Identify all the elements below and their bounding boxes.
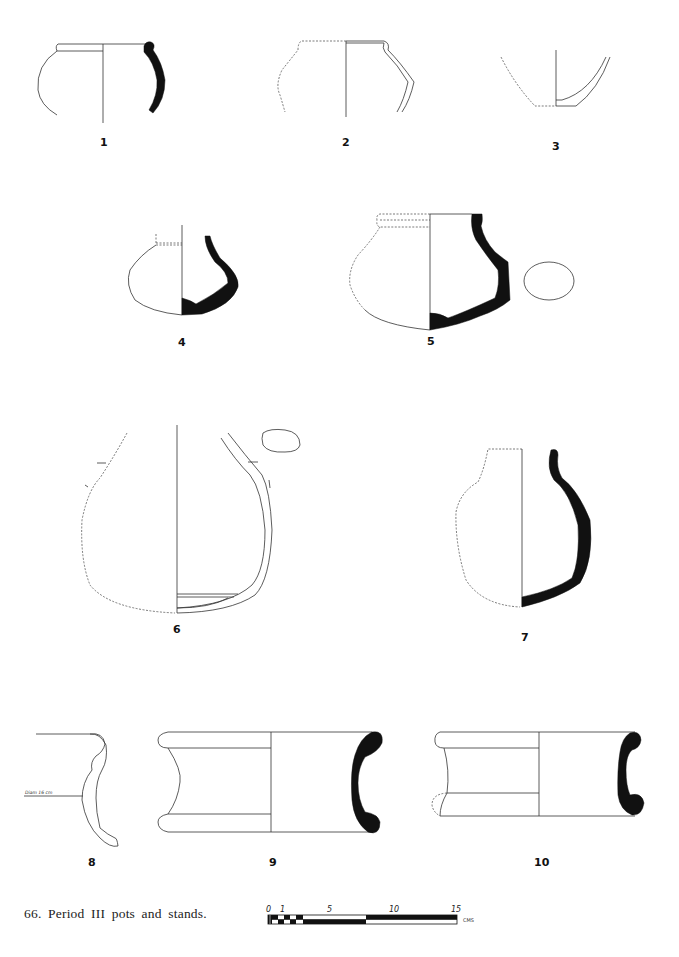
figure-number-3: 3 [552, 140, 560, 153]
scale-label-5: 5 [327, 905, 332, 914]
scale-label-0: 0 [266, 905, 271, 914]
figure-number-7: 7 [521, 631, 529, 644]
scale-bar: 0 1 5 10 15 CMS [266, 905, 474, 924]
figure-number-6: 6 [173, 623, 181, 636]
pottery-plate: 1 2 3 4 5 6 [0, 0, 679, 957]
stand-drawing-10: 10 [432, 732, 644, 869]
pot-drawing-7: 7 [456, 449, 591, 644]
diameter-annotation: Diam 16 cm [25, 790, 53, 795]
stand-drawing-9: 9 [158, 732, 382, 869]
figure-caption: 66. Period III pots and stands. [24, 906, 207, 922]
pot-drawing-3: 3 [501, 50, 610, 153]
pot-drawing-5: 5 [350, 214, 574, 348]
figure-number-4: 4 [178, 336, 186, 349]
figure-number-1: 1 [100, 136, 108, 149]
scale-label-10: 10 [389, 905, 399, 914]
figure-number-9: 9 [269, 856, 277, 869]
figure-number-5: 5 [427, 335, 435, 348]
figure-number-8: 8 [88, 856, 96, 869]
stand-drawing-8: Diam 16 cm 8 [24, 734, 118, 869]
pot-drawing-2: 2 [278, 41, 414, 149]
scale-units: CMS [463, 917, 474, 923]
pot-drawing-4: 4 [128, 225, 238, 349]
scale-label-15: 15 [451, 905, 461, 914]
figure-number-2: 2 [342, 136, 350, 149]
scale-label-1: 1 [280, 905, 285, 914]
figure-number-10: 10 [534, 856, 550, 869]
pot-drawing-6: 6 [82, 425, 300, 636]
pot-drawing-1: 1 [38, 42, 165, 149]
